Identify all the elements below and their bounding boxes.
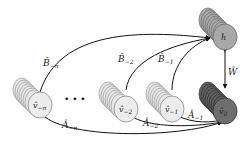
label-a-minus-2: Â−2: [142, 117, 159, 129]
node-h: ĥ: [199, 8, 237, 50]
label-w: Ŵ: [228, 66, 238, 77]
label-b-minus-n: B̂−n: [42, 57, 59, 69]
node-v-minus-1: v̂−1: [146, 82, 184, 122]
node-v0: v̂0: [199, 82, 237, 124]
node-v-minus-2: v̂−2: [99, 82, 138, 122]
node-h-label: ĥ: [221, 33, 226, 42]
label-a-minus-1: Â−1: [187, 109, 203, 121]
ellipsis: • • •: [64, 94, 86, 104]
label-a-minus-n: Â−n: [61, 119, 78, 131]
diagram-canvas: ĥ v̂0 v̂−1 v̂−2: [0, 0, 250, 142]
label-b-minus-2: B̂−2: [117, 53, 134, 65]
node-v-minus-n: v̂−n: [13, 78, 52, 118]
label-b-minus-1: B̂−1: [157, 53, 173, 65]
